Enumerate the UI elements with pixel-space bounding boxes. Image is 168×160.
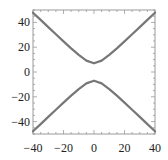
y-tick-label: −40: [11, 115, 30, 129]
upper-branch-curve: [33, 13, 155, 64]
x-tick-label: −40: [24, 141, 43, 155]
x-tick-label: 0: [91, 141, 97, 155]
x-tick-label: 20: [119, 141, 131, 155]
curves: [33, 13, 155, 132]
x-tick-label: 40: [149, 141, 161, 155]
hyperbola-chart: −40−2002040−40−2002040: [0, 0, 168, 160]
y-tick-label: 0: [24, 65, 30, 79]
lower-branch-curve: [33, 81, 155, 132]
y-tick-label: 20: [18, 40, 30, 54]
x-tick-label: −20: [54, 141, 73, 155]
y-tick-label: 40: [18, 15, 30, 29]
y-tick-label: −20: [11, 90, 30, 104]
